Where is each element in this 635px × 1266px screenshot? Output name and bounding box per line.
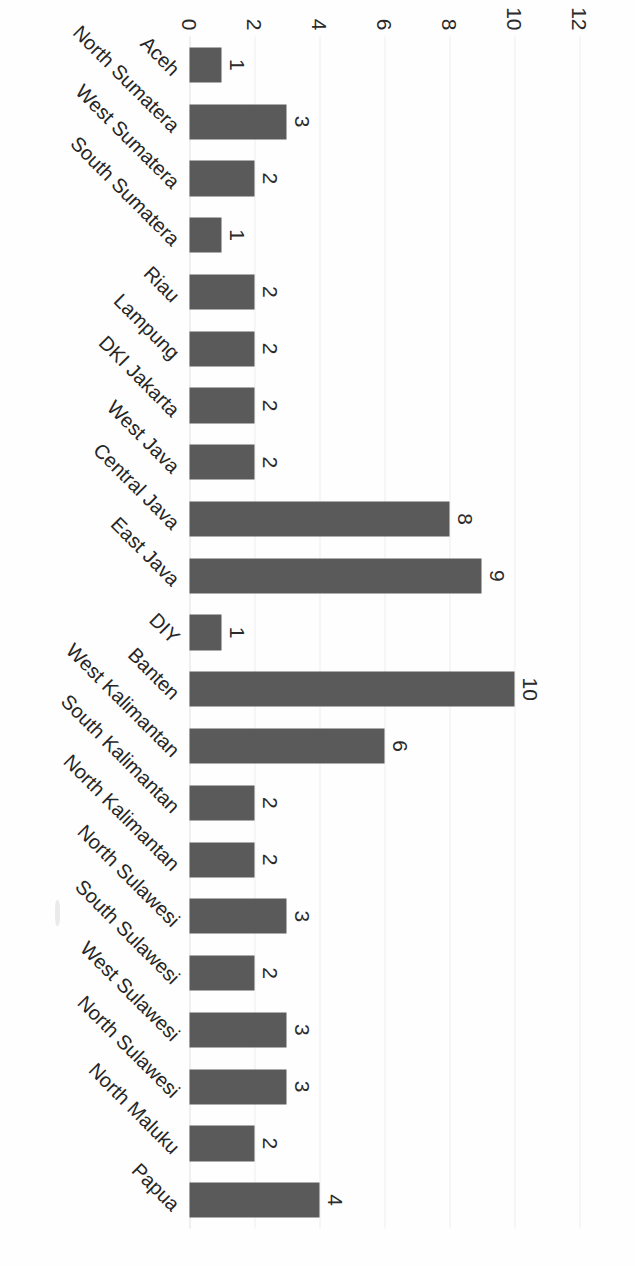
category-slot: DKI Jakarta — [17, 377, 187, 434]
value-axis-tick-label: 12 — [569, 7, 590, 30]
bar: 2 — [189, 387, 254, 422]
bar-chart: 024681012 1321222289110622323324 AcehNor… — [0, 0, 635, 1266]
bar: 2 — [189, 444, 254, 479]
category-axis-label: Riau — [140, 262, 183, 305]
bar: 3 — [189, 898, 287, 933]
bar-value-label: 1 — [227, 626, 248, 638]
value-axis-tick-label: 10 — [504, 7, 525, 30]
rotated-chart-frame: 024681012 1321222289110622323324 AcehNor… — [0, 0, 635, 1266]
bar-slot: 2 — [189, 150, 579, 207]
bar-slot: 1 — [189, 206, 579, 263]
bar: 3 — [189, 104, 287, 139]
bar-series: 1321222289110622323324 — [189, 36, 579, 1228]
bar-value-label: 2 — [259, 286, 280, 298]
scanned-page: 024681012 1321222289110622323324 AcehNor… — [0, 0, 635, 1266]
bar: 2 — [189, 1125, 254, 1160]
bar-value-label: 9 — [487, 569, 508, 581]
bar: 9 — [189, 558, 482, 593]
bar-value-label: 3 — [292, 1024, 313, 1036]
bar: 6 — [189, 728, 384, 763]
bar-value-label: 2 — [259, 342, 280, 354]
category-slot: Central Java — [17, 490, 187, 547]
category-slot: East Java — [17, 547, 187, 604]
bar-value-label: 2 — [259, 1137, 280, 1149]
bar: 2 — [189, 785, 254, 820]
bar-slot: 2 — [189, 377, 579, 434]
bar: 2 — [189, 331, 254, 366]
bar: 1 — [189, 614, 222, 649]
bar-slot: 2 — [189, 320, 579, 377]
bar: 2 — [189, 842, 254, 877]
category-slot: South Sumatera — [17, 206, 187, 263]
bar-slot: 2 — [189, 831, 579, 888]
bar-slot: 4 — [189, 1171, 579, 1228]
bar-slot: 2 — [189, 263, 579, 320]
plot-area: 1321222289110622323324 — [189, 36, 579, 1228]
value-axis-tick-label: 2 — [244, 18, 265, 30]
category-slot: North Maluku — [17, 1115, 187, 1172]
value-axis-tick-label: 8 — [439, 18, 460, 30]
category-slot: DIY — [17, 604, 187, 661]
bar-slot: 3 — [189, 887, 579, 944]
bar: 3 — [189, 1069, 287, 1104]
category-axis: AcehNorth SumateraWest SumateraSouth Sum… — [17, 36, 187, 1228]
category-slot: Papua — [17, 1171, 187, 1228]
value-axis-tick-label: 6 — [374, 18, 395, 30]
bar-value-label: 10 — [519, 677, 540, 700]
bar-value-label: 6 — [389, 740, 410, 752]
bar-slot: 2 — [189, 944, 579, 1001]
bar: 8 — [189, 501, 449, 536]
bar-slot: 8 — [189, 490, 579, 547]
bar-value-label: 2 — [259, 399, 280, 411]
bar: 2 — [189, 160, 254, 195]
bar-value-label: 4 — [324, 1194, 345, 1206]
bar-value-label: 1 — [227, 59, 248, 71]
bar-value-label: 3 — [292, 115, 313, 127]
bar-slot: 3 — [189, 93, 579, 150]
bar: 1 — [189, 217, 222, 252]
bar: 2 — [189, 274, 254, 309]
bar-slot: 2 — [189, 433, 579, 490]
bar-slot: 9 — [189, 547, 579, 604]
bar-slot: 2 — [189, 1115, 579, 1172]
bar: 4 — [189, 1182, 319, 1217]
bar-value-label: 8 — [454, 513, 475, 525]
value-axis-tick-label: 4 — [309, 18, 330, 30]
category-slot: Riau — [17, 263, 187, 320]
bar-value-label: 2 — [259, 796, 280, 808]
value-axis: 024681012 — [189, 0, 579, 34]
bar-slot: 2 — [189, 774, 579, 831]
bar-value-label: 2 — [259, 853, 280, 865]
bar-value-label: 3 — [292, 910, 313, 922]
bar: 10 — [189, 671, 514, 706]
bar: 3 — [189, 1012, 287, 1047]
bar-value-label: 2 — [259, 967, 280, 979]
category-axis-label: Aceh — [137, 32, 183, 78]
bar: 2 — [189, 955, 254, 990]
bar-slot: 1 — [189, 36, 579, 93]
bar-value-label: 3 — [292, 1080, 313, 1092]
bar-slot: 6 — [189, 717, 579, 774]
category-axis-label: DIY — [145, 608, 183, 646]
bar-value-label: 1 — [227, 229, 248, 241]
bar-slot: 3 — [189, 1001, 579, 1058]
bar-slot: 10 — [189, 660, 579, 717]
bar-value-label: 2 — [259, 456, 280, 468]
bar-slot: 3 — [189, 1058, 579, 1115]
bar-value-label: 2 — [259, 172, 280, 184]
bar: 1 — [189, 47, 222, 82]
value-axis-tick-label: 0 — [179, 18, 200, 30]
bar-slot: 1 — [189, 604, 579, 661]
